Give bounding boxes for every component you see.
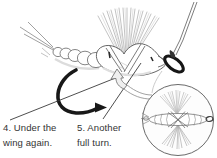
- tail-fibers: [20, 22, 55, 57]
- figure-panel: 4. Under the wing again. 5. Another full…: [0, 0, 217, 158]
- main-fly-side-view: [20, 2, 197, 76]
- step5-caption: 5. Another full turn.: [77, 121, 133, 150]
- black-arrowhead-icon: [95, 103, 107, 113]
- step4-pointer-line: [10, 77, 118, 120]
- tying-thread: [170, 2, 197, 58]
- step4-caption: 4. Under the wing again.: [3, 121, 65, 150]
